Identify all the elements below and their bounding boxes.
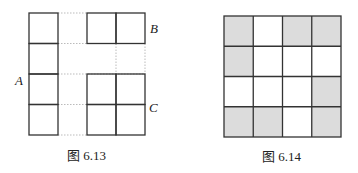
caption-figure-6-13: 图 6.13	[67, 145, 106, 164]
caption-figure-6-14: 图 6.14	[262, 146, 301, 165]
label-c: C	[149, 100, 158, 116]
label-b: B	[150, 21, 158, 37]
label-a: A	[15, 73, 23, 89]
figure-6-13-grid	[29, 13, 145, 135]
figures-canvas	[0, 0, 358, 173]
figure-6-14-grid	[224, 16, 341, 137]
